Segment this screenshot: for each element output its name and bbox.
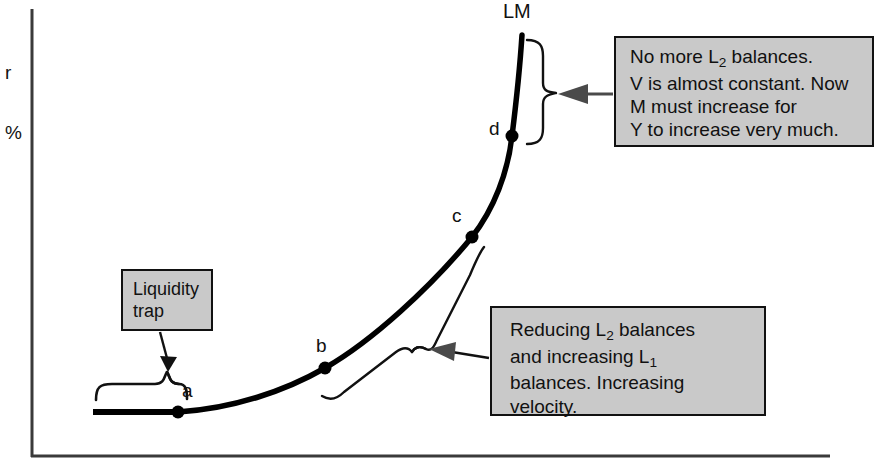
liquidity-trap-callout-line1: Liquidity	[133, 278, 211, 300]
point-b-label: b	[316, 335, 327, 357]
nomore-callout-line1: No more L2 balances.	[630, 45, 872, 72]
reducing-callout-line1-subscript: 2	[606, 328, 614, 343]
reducing-callout-line1-b: balances	[614, 319, 695, 340]
nomore-callout-line1-a: No more L	[630, 46, 719, 67]
point-d-marker	[506, 130, 519, 143]
b-c-brace	[322, 347, 426, 398]
nomore-callout-line3: M must increase for	[630, 95, 872, 118]
nomore-callout-line2: V is almost constant. Now	[630, 72, 872, 95]
point-d-label: d	[489, 118, 500, 140]
nomore-callout-line1-b: balances.	[726, 46, 813, 67]
curve-points-group	[172, 130, 519, 419]
liquidity-trap-arrow	[160, 332, 177, 372]
y-axis-label-line1: r	[5, 63, 26, 83]
point-c-label: c	[452, 205, 462, 227]
point-a-label: a	[182, 380, 193, 402]
reducing-callout-line1-a: Reducing L	[510, 319, 606, 340]
y-axis-label-line2: %	[5, 123, 26, 143]
point-b-marker	[319, 362, 332, 375]
point-a-marker	[172, 406, 185, 419]
y-axis-label: r %	[5, 23, 26, 183]
point-c-marker	[466, 231, 479, 244]
nomore-callout-arrow	[558, 84, 613, 104]
reducing-callout-line3: balances. Increasing	[510, 371, 764, 394]
liquidity-trap-callout-line2: trap	[133, 300, 211, 322]
liquidity-trap-callout: Liquidity trap	[121, 269, 213, 331]
no-more-balances-callout: No more L2 balances. V is almost constan…	[614, 36, 874, 147]
reducing-callout-line2-a: and increasing L	[510, 346, 649, 367]
nomore-callout-line4: Y to increase very much.	[630, 118, 872, 141]
lm-curve-label: LM	[503, 0, 531, 23]
liquidity-trap-brace	[96, 372, 179, 400]
figure-canvas: r % LM a b c d Liquidity trap Reducing L…	[0, 0, 890, 472]
reducing-callout-line2: and increasing L1	[510, 345, 764, 372]
d-segment-brace	[527, 40, 556, 144]
reducing-callout-line1: Reducing L2 balances	[510, 318, 764, 345]
reducing-callout-line2-subscript: 1	[649, 354, 657, 369]
reducing-callout-arrow	[429, 342, 489, 361]
reducing-balances-callout: Reducing L2 balances and increasing L1 b…	[490, 306, 766, 416]
reducing-callout-line4: velocity.	[510, 395, 764, 418]
